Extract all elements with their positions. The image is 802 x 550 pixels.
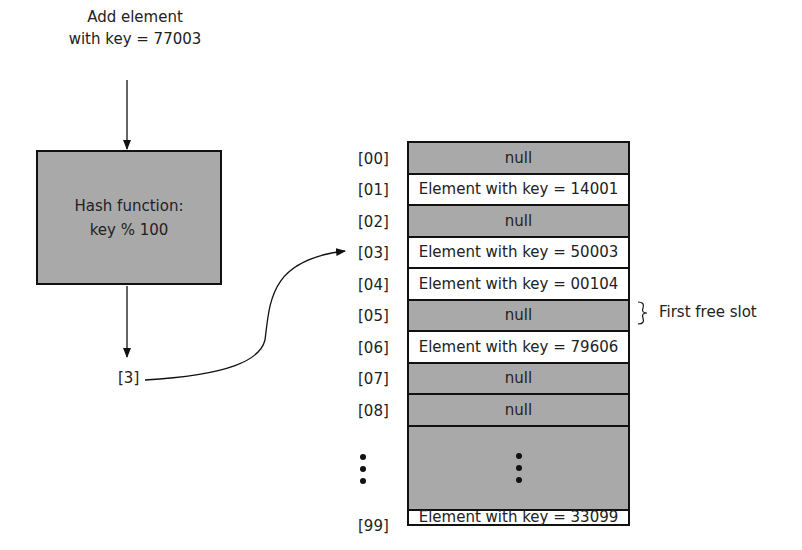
hash-table: nullElement with key = 14001nullElement …	[407, 141, 630, 526]
slot-content: Element with key = 50003	[419, 243, 619, 261]
slot-index-label: [07]	[358, 369, 398, 389]
first-free-slot-label: First free slot	[659, 303, 757, 321]
table-slot-4: Element with key = 00104	[409, 269, 628, 301]
slot-index-label: [03]	[358, 243, 398, 263]
table-slot-7: null	[409, 364, 628, 396]
table-slot-2: null	[409, 206, 628, 238]
slot-content: null	[505, 149, 532, 167]
table-slot-10: Element with key = 33099	[409, 511, 628, 525]
slot-index-label: [99]	[358, 516, 398, 536]
slot-index-label: [02]	[358, 212, 398, 232]
first-free-slot-brace	[638, 302, 647, 324]
slot-index-label: [08]	[358, 401, 398, 421]
slot-content: null	[505, 212, 532, 230]
arrows-layer	[0, 0, 802, 550]
table-slot-0: null	[409, 143, 628, 175]
slot-content: Element with key = 79606	[419, 338, 619, 356]
table-slot-3: Element with key = 50003	[409, 238, 628, 270]
slot-index-label: [04]	[358, 275, 398, 295]
slot-content: null	[505, 369, 532, 387]
table-slot-8: null	[409, 395, 628, 427]
table-slot-1: Element with key = 14001	[409, 175, 628, 207]
table-slot-6: Element with key = 79606	[409, 332, 628, 364]
index-ellipsis-icon	[360, 454, 366, 484]
index-pointer-arrow	[145, 251, 345, 380]
slot-index-label: [05]	[358, 306, 398, 326]
slot-index-label: [06]	[358, 338, 398, 358]
table-slot-9	[409, 427, 628, 511]
slot-content: Element with key = 33099	[419, 508, 619, 526]
ellipsis-icon	[516, 453, 522, 483]
slot-index-label: [00]	[358, 149, 398, 169]
slot-index-label: [01]	[358, 180, 398, 200]
table-slot-5: null	[409, 301, 628, 333]
slot-content: Element with key = 14001	[419, 180, 619, 198]
slot-content: null	[505, 306, 532, 324]
slot-content: Element with key = 00104	[419, 275, 619, 293]
slot-content: null	[505, 401, 532, 419]
